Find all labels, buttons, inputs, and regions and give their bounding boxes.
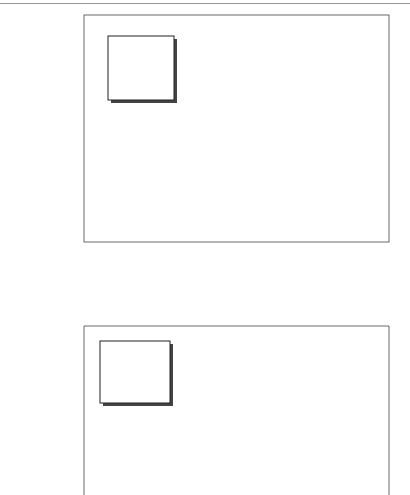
bottom-legend [100, 341, 173, 406]
figure-canvas [0, 0, 410, 495]
top-legend [108, 36, 177, 103]
legend-box [100, 341, 170, 403]
bottom-chart [84, 326, 389, 495]
top-chart [0, 0, 389, 242]
legend-box [108, 36, 174, 100]
